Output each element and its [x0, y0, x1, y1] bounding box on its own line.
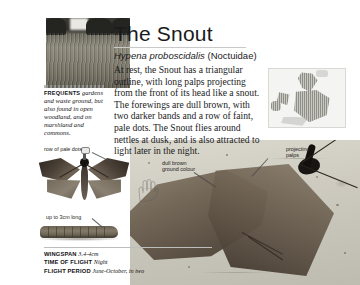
habitat-caption-text: gardens and waste ground, but also found…: [44, 89, 103, 136]
caterpillar-shadow: [38, 237, 120, 241]
scientific-name-line: Hypena proboscidalis (Noctuidae): [114, 50, 257, 61]
specimen-lower-right-wing: [86, 178, 124, 202]
fact-value-flight-period: June-October, in two: [92, 267, 144, 274]
callout-palps-line2: palps: [286, 152, 299, 158]
specimen-lower-left-wing: [44, 178, 82, 202]
hand-scale-sketch-icon: [136, 176, 160, 202]
specimen-pin-head: [81, 147, 90, 154]
fact-key-time-of-flight: TIME OF FLIGHT: [44, 259, 92, 265]
fact-key-flight-period: FLIGHT PERIOD: [44, 268, 91, 274]
fact-key-wingspan: WINGSPAN: [44, 251, 77, 257]
sky-patch: [70, 18, 88, 30]
specimen-abdomen: [81, 164, 88, 200]
fact-row-flight-period: FLIGHT PERIOD June-October, in two: [44, 267, 214, 275]
scientific-name: Hypena proboscidalis: [114, 50, 205, 61]
distribution-map: [268, 68, 346, 128]
callout-row-of-pale-dots: row of pale dots: [44, 146, 82, 152]
caption-divider: [44, 85, 104, 88]
fact-value-wingspan: 3.4-4cm: [78, 250, 98, 257]
facts-divider: [44, 247, 212, 248]
habitat-caption-label: FREQUENTS: [44, 90, 80, 96]
field-guide-page: FREQUENTS gardens and waste ground, but …: [0, 0, 360, 285]
moth-specimen: [38, 156, 130, 208]
title-divider: [114, 47, 246, 48]
fact-row-time-of-flight: TIME OF FLIGHT Night: [44, 258, 214, 266]
description-text: At rest, the Snout has a triangular outl…: [114, 64, 264, 157]
family-name: (Noctuidae): [207, 50, 256, 61]
callout-caterpillar-size: up to 3cm long: [46, 214, 81, 220]
fact-row-wingspan: WINGSPAN 3.4-4cm: [44, 250, 214, 258]
fact-list: WINGSPAN 3.4-4cm TIME OF FLIGHT Night FL…: [44, 250, 214, 275]
habitat-caption: FREQUENTS gardens and waste ground, but …: [44, 89, 106, 138]
tree-line-1: [46, 18, 66, 35]
fact-value-time-of-flight: Night: [94, 258, 108, 265]
page-title: The Snout: [114, 22, 213, 46]
caterpillar-illustration: [36, 224, 122, 242]
callout-ground-colour-line2: ground colour: [162, 166, 195, 172]
tree-line-2: [86, 18, 111, 35]
